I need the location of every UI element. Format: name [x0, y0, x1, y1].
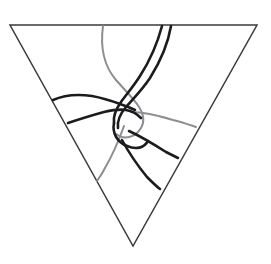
figure-canvas	[0, 0, 271, 264]
figure-background	[0, 0, 271, 264]
knot-diagram-svg	[0, 0, 271, 264]
